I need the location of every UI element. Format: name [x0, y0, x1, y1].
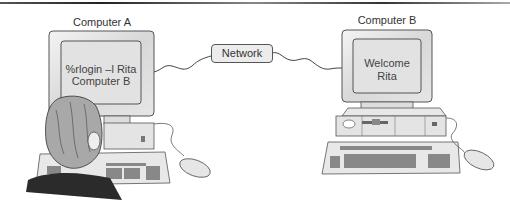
computer-a-label: Computer A [70, 16, 134, 28]
diagram-illustration [0, 0, 510, 211]
computer-b-screen-line1: Welcome [353, 56, 421, 70]
wire-network-b [272, 53, 342, 70]
computer-b-label: Computer B [355, 14, 419, 26]
computer-a-graphic [26, 31, 213, 200]
computer-a-screen-line2: Computer B [61, 74, 141, 88]
network-node: Network [211, 44, 273, 63]
wire-a-network [154, 56, 211, 72]
computer-b-graphic [322, 30, 497, 174]
computer-b-screen-line2: Rita [353, 69, 421, 83]
